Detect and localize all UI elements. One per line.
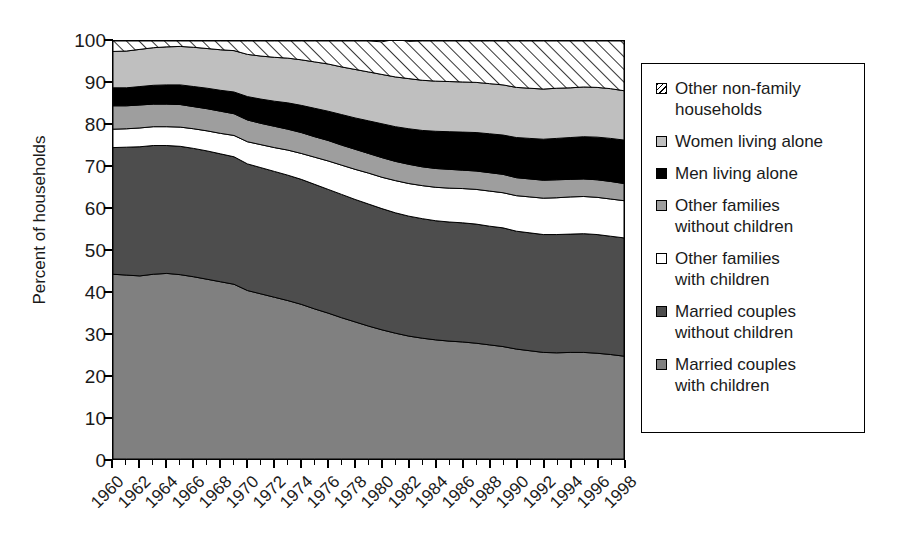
legend-swatch-icon xyxy=(656,359,667,370)
legend-swatch-icon xyxy=(656,200,667,211)
legend-label-line2: without children xyxy=(675,322,796,343)
legend-item[interactable]: Married coupleswith children xyxy=(656,354,856,396)
legend-swatch-icon xyxy=(656,83,667,94)
legend-label: Married coupleswith children xyxy=(675,354,796,396)
legend-swatch-icon xyxy=(656,306,667,317)
legend-label: Other non-familyhouseholds xyxy=(675,78,801,120)
legend-swatch-icon xyxy=(656,168,667,179)
legend-item[interactable]: Married coupleswithout children xyxy=(656,301,856,343)
legend-label-line2: with children xyxy=(675,375,796,396)
legend-label-line2: without children xyxy=(675,216,793,237)
legend-item[interactable]: Men living alone xyxy=(656,163,856,184)
legend-item[interactable]: Women living alone xyxy=(656,131,856,152)
legend-swatch-icon xyxy=(656,253,667,264)
legend-label-line2: with children xyxy=(675,269,780,290)
legend-item[interactable]: Other familieswith children xyxy=(656,248,856,290)
legend-label: Other familieswith children xyxy=(675,248,780,290)
legend-label-line2: households xyxy=(675,99,801,120)
legend-swatch-icon xyxy=(656,136,667,147)
legend-label: Married coupleswithout children xyxy=(675,301,796,343)
legend-item[interactable]: Other familieswithout children xyxy=(656,195,856,237)
legend-item[interactable]: Other non-familyhouseholds xyxy=(656,78,856,120)
chart-legend: Other non-familyhouseholdsWomen living a… xyxy=(641,63,865,433)
legend-label: Men living alone xyxy=(675,163,798,184)
legend-label: Other familieswithout children xyxy=(675,195,793,237)
legend-label: Women living alone xyxy=(675,131,823,152)
chart-page: Percent of households 100908070605040302… xyxy=(0,0,903,543)
